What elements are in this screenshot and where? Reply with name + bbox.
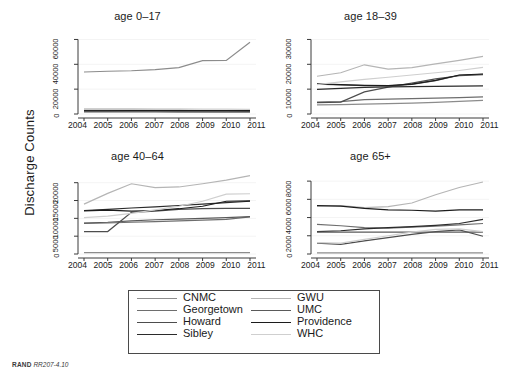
x-tick-label: 2008: [401, 120, 424, 130]
x-tick-label: 2005: [325, 120, 348, 130]
plot-area: [311, 168, 489, 256]
x-tick-label: 2004: [66, 260, 89, 270]
plot-svg: [311, 28, 489, 116]
series-line: [84, 109, 250, 110]
credit-id: RR207-4.10: [33, 361, 68, 368]
plot-area: [78, 168, 256, 256]
x-tick-label: 2010: [219, 260, 242, 270]
x-tick-label: 2006: [117, 120, 140, 130]
series-line: [84, 42, 250, 72]
legend-swatch: [243, 327, 297, 339]
x-tick-labels: 20042005200620072008200920102011: [66, 260, 268, 270]
legend-label: Georgetown: [183, 303, 243, 315]
legend-line-icon: [137, 310, 177, 311]
x-tick-labels: 20042005200620072008200920102011: [299, 260, 501, 270]
y-tick-label: 2000: [285, 235, 294, 252]
x-tick-label: 2009: [194, 260, 217, 270]
panel-age-40-64: age 40–64 200420052006200720082009201020…: [20, 150, 255, 280]
legend-line-icon: [251, 298, 291, 299]
legend-swatch: [243, 303, 297, 315]
plot-svg: [78, 168, 256, 256]
y-tick-label: 30000: [285, 39, 294, 60]
legend-line-icon: [251, 310, 291, 311]
x-tick-label: 2004: [66, 120, 89, 130]
figure-credit: RAND RR207-4.10: [12, 361, 68, 368]
legend-line-icon: [137, 298, 177, 299]
x-tick-label: 2005: [92, 120, 115, 130]
x-tick-label: 2008: [168, 260, 191, 270]
x-tick-labels: 20042005200620072008200920102011: [66, 120, 268, 130]
y-tick-label: 6000: [285, 199, 294, 216]
legend-label: GWU: [297, 291, 352, 303]
y-tick-label: 4000: [285, 217, 294, 234]
y-tick-label: 20000: [285, 64, 294, 85]
x-tick-label: 2007: [143, 260, 166, 270]
legend-table: CNMCGWUGeorgetownUMCHowardProvidenceSibl…: [129, 291, 352, 339]
x-tick-label: 2006: [350, 260, 373, 270]
plot-svg: [311, 168, 489, 256]
y-tick-label: 20000: [52, 182, 61, 203]
panel-title: age 40–64: [20, 150, 255, 162]
y-tick-label: 0: [285, 114, 294, 118]
legend-swatch: [129, 291, 183, 303]
legend-row: HowardProvidence: [129, 315, 352, 327]
x-tick-labels: 20042005200620072008200920102011: [299, 120, 501, 130]
series-line: [317, 56, 483, 76]
chart-figure: Discharge Counts age 0–17 20042005200620…: [0, 0, 506, 383]
plot-svg: [78, 28, 256, 116]
x-tick-label: 2010: [452, 120, 475, 130]
y-tick-label: 0: [52, 114, 61, 118]
y-tick-label: 60000: [52, 39, 61, 60]
series-line: [84, 176, 250, 205]
panel-age-0-17: age 0–17 2004200520062007200820092010201…: [20, 10, 255, 140]
x-tick-label: 2006: [117, 260, 140, 270]
x-tick-label: 2009: [427, 120, 450, 130]
x-tick-label: 2007: [143, 120, 166, 130]
x-tick-label: 2010: [219, 120, 242, 130]
panel-age-18-39: age 18–39 200420052006200720082009201020…: [253, 10, 488, 140]
series-line: [317, 182, 483, 208]
x-tick-label: 2005: [325, 260, 348, 270]
panel-title: age 0–17: [20, 10, 255, 22]
x-tick-label: 2004: [299, 120, 322, 130]
legend-row: GeorgetownUMC: [129, 303, 352, 315]
panel-title: age 65+: [253, 150, 488, 162]
legend-swatch: [129, 303, 183, 315]
x-tick-label: 2009: [194, 120, 217, 130]
chart-legend: CNMCGWUGeorgetownUMCHowardProvidenceSibl…: [128, 290, 380, 354]
panel-title: age 18–39: [253, 10, 488, 22]
legend-label: Sibley: [183, 327, 243, 339]
x-tick-label: 2009: [427, 260, 450, 270]
legend-swatch: [243, 291, 297, 303]
legend-swatch: [129, 327, 183, 339]
plot-area: [311, 28, 489, 116]
y-tick-label: 10000: [285, 89, 294, 110]
legend-label: Howard: [183, 315, 243, 327]
y-tick-label: 20000: [52, 89, 61, 110]
x-tick-label: 2007: [376, 260, 399, 270]
x-tick-label: 2004: [299, 260, 322, 270]
x-tick-label: 2007: [376, 120, 399, 130]
legend-line-icon: [251, 334, 291, 335]
legend-swatch: [129, 315, 183, 327]
legend-line-icon: [137, 322, 177, 323]
x-tick-label: 2006: [350, 120, 373, 130]
legend-row: SibleyWHC: [129, 327, 352, 339]
x-tick-label: 2010: [452, 260, 475, 270]
y-tick-label: 0: [285, 254, 294, 258]
x-tick-label: 2011: [478, 260, 501, 270]
legend-label: UMC: [297, 303, 352, 315]
legend-line-icon: [251, 322, 291, 323]
x-tick-label: 2005: [92, 260, 115, 270]
x-tick-label: 2008: [401, 260, 424, 270]
legend-swatch: [243, 315, 297, 327]
legend-label: Providence: [297, 315, 352, 327]
x-tick-label: 2011: [478, 120, 501, 130]
y-tick-label: 40000: [52, 64, 61, 85]
credit-org: RAND: [12, 361, 32, 368]
legend-label: CNMC: [183, 291, 243, 303]
y-tick-label: 8000: [285, 181, 294, 198]
legend-row: CNMCGWU: [129, 291, 352, 303]
plot-area: [78, 28, 256, 116]
legend-line-icon: [137, 334, 177, 335]
